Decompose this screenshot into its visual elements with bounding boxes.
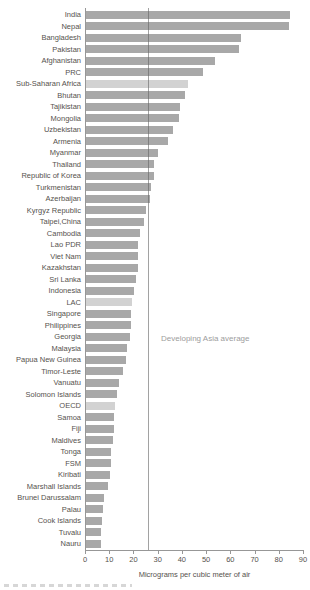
bar-row: Pakistan <box>0 44 310 56</box>
bar-track <box>86 80 304 88</box>
value-bar <box>86 356 126 364</box>
value-bar <box>86 195 150 203</box>
tick-label: 60 <box>221 555 239 564</box>
tick-label: 20 <box>124 555 142 564</box>
value-bar <box>86 402 115 410</box>
bar-row: Viet Nam <box>0 251 310 263</box>
bar-row: Kiribati <box>0 469 310 481</box>
value-bar <box>86 22 289 30</box>
value-bar <box>86 172 154 180</box>
value-bar <box>86 68 203 76</box>
bar-row: Cook Islands <box>0 515 310 527</box>
bar-track <box>86 448 304 456</box>
category-label: Singapore <box>0 310 81 318</box>
value-bar <box>86 413 114 421</box>
value-bar <box>86 229 140 237</box>
bar-track <box>86 275 304 283</box>
category-label: Nauru <box>0 540 81 548</box>
bar-row: PRC <box>0 67 310 79</box>
bar-row: Philippines <box>0 320 310 332</box>
bar-row: Cambodia <box>0 228 310 240</box>
value-bar <box>86 287 134 295</box>
tick-mark <box>303 551 304 554</box>
tick-label: 80 <box>270 555 288 564</box>
pm25-bar-chart: IndiaNepalBangladeshPakistanAfghanistanP… <box>0 0 310 590</box>
category-label: Sub-Saharan Africa <box>0 80 81 88</box>
bar-track <box>86 321 304 329</box>
value-bar <box>86 517 102 525</box>
tick-mark <box>109 551 110 554</box>
bar-row: Kyrgyz Republic <box>0 205 310 217</box>
tick-label: 90 <box>294 555 310 564</box>
cropped-source-note-remnant <box>4 584 132 587</box>
bar-row: Nauru <box>0 538 310 550</box>
bar-row: Bhutan <box>0 90 310 102</box>
bar-track <box>86 459 304 467</box>
value-bar <box>86 390 117 398</box>
value-bar <box>86 11 290 19</box>
value-bar <box>86 218 144 226</box>
category-label: Lao PDR <box>0 241 81 249</box>
value-bar <box>86 528 101 536</box>
bar-row: Brunei Darussalam <box>0 492 310 504</box>
bar-track <box>86 34 304 42</box>
tick-label: 30 <box>149 555 167 564</box>
category-label: Papua New Guinea <box>0 356 81 364</box>
category-label: Solomon Islands <box>0 391 81 399</box>
value-bar <box>86 160 154 168</box>
tick-mark <box>255 551 256 554</box>
category-label: Timor-Leste <box>0 368 81 376</box>
category-label: Kiribati <box>0 471 81 479</box>
bar-row: Sri Lanka <box>0 274 310 286</box>
bar-track <box>86 356 304 364</box>
bar-row: Afghanistan <box>0 55 310 67</box>
bar-track <box>86 310 304 318</box>
category-label: Malaysia <box>0 345 81 353</box>
bar-track <box>86 436 304 444</box>
category-label: Tajikistan <box>0 103 81 111</box>
value-bar <box>86 540 101 548</box>
bar-row: Kazakhstan <box>0 262 310 274</box>
value-bar <box>86 264 138 272</box>
category-label: Fiji <box>0 425 81 433</box>
category-label: Nepal <box>0 23 81 31</box>
bar-row: Singapore <box>0 308 310 320</box>
value-bar <box>86 137 168 145</box>
value-bar <box>86 45 239 53</box>
value-bar <box>86 298 132 306</box>
category-label: Armenia <box>0 138 81 146</box>
bar-row: Mongolia <box>0 113 310 125</box>
bar-row: Papua New Guinea <box>0 354 310 366</box>
x-axis-line <box>85 550 304 551</box>
category-label: Mongolia <box>0 115 81 123</box>
bar-track <box>86 287 304 295</box>
bar-row: Taipei,China <box>0 216 310 228</box>
value-bar <box>86 34 241 42</box>
category-label: FSM <box>0 460 81 468</box>
value-bar <box>86 333 130 341</box>
bar-track <box>86 517 304 525</box>
bar-row: Georgia <box>0 331 310 343</box>
bar-row: Republic of Korea <box>0 170 310 182</box>
bar-track <box>86 218 304 226</box>
bar-track <box>86 402 304 410</box>
bar-track <box>86 241 304 249</box>
category-label: Sri Lanka <box>0 276 81 284</box>
bar-row: Thailand <box>0 159 310 171</box>
value-bar <box>86 459 111 467</box>
tick-label: 40 <box>173 555 191 564</box>
developing-asia-average-line <box>148 8 149 550</box>
bar-row: FSM <box>0 458 310 470</box>
category-label: Vanuatu <box>0 379 81 387</box>
bar-row: Sub-Saharan Africa <box>0 78 310 90</box>
value-bar <box>86 183 151 191</box>
value-bar <box>86 425 114 433</box>
category-label: Bhutan <box>0 92 81 100</box>
value-bar <box>86 91 185 99</box>
tick-label: 0 <box>76 555 94 564</box>
category-label: Brunei Darussalam <box>0 494 81 502</box>
bar-track <box>86 425 304 433</box>
tick-mark <box>279 551 280 554</box>
bar-row: Nepal <box>0 21 310 33</box>
category-label: Tonga <box>0 448 81 456</box>
